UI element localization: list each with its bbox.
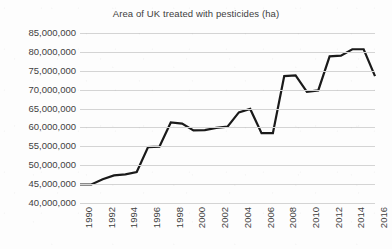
gridline — [80, 146, 375, 147]
gridline — [80, 109, 375, 110]
y-tick-label: 85,000,000 — [0, 28, 76, 38]
y-tick-label: 80,000,000 — [0, 47, 76, 57]
x-tick-label: 2006 — [266, 207, 276, 228]
gridline — [80, 90, 375, 91]
y-tick-label: 55,000,000 — [0, 141, 76, 151]
x-tick-label: 2012 — [334, 207, 344, 228]
gridline — [80, 127, 375, 128]
gridline — [80, 184, 375, 185]
chart-title: Area of UK treated with pesticides (ha) — [0, 8, 392, 20]
y-tick-label: 50,000,000 — [0, 160, 76, 170]
x-tick-label: 1994 — [129, 207, 139, 228]
x-tick-label: 1990 — [84, 207, 94, 228]
series-polyline — [80, 49, 375, 184]
x-tick-label: 2010 — [311, 207, 321, 228]
gridline — [80, 71, 375, 72]
x-axis: 1990199219941996199820002002200420062008… — [80, 203, 375, 249]
x-tick-label: 2002 — [220, 207, 230, 228]
gridline — [80, 52, 375, 53]
series-line — [80, 33, 375, 203]
x-tick-label: 2016 — [379, 207, 389, 228]
y-tick-label: 60,000,000 — [0, 122, 76, 132]
x-tick-label: 2000 — [197, 207, 207, 228]
x-tick-label: 2008 — [288, 207, 298, 228]
pesticide-area-line-chart: Area of UK treated with pesticides (ha) … — [0, 0, 392, 249]
y-tick-label: 40,000,000 — [0, 198, 76, 208]
gridline — [80, 165, 375, 166]
y-tick-label: 45,000,000 — [0, 179, 76, 189]
y-tick-label: 75,000,000 — [0, 66, 76, 76]
plot-area — [80, 33, 375, 203]
x-tick-label: 1998 — [175, 207, 185, 228]
gridline — [80, 33, 375, 34]
x-tick-label: 1992 — [107, 207, 117, 228]
x-tick-label: 1996 — [152, 207, 162, 228]
x-tick-label: 2004 — [243, 207, 253, 228]
y-tick-label: 65,000,000 — [0, 104, 76, 114]
x-tick-label: 2014 — [356, 207, 366, 228]
y-tick-label: 70,000,000 — [0, 85, 76, 95]
y-axis: 85,000,00080,000,00075,000,00070,000,000… — [0, 33, 76, 203]
